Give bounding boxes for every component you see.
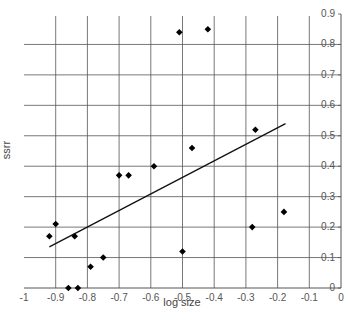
data-point-diamond [179,248,186,255]
x-axis-label: log size [163,296,200,308]
x-tick-label: -0.1 [301,292,319,303]
y-tick-label: 0.1 [321,252,335,263]
x-tick-label: -0.6 [142,292,160,303]
y-tick-label: 0.8 [321,38,335,49]
x-tick-label: -0.9 [47,292,65,303]
y-tick-label: 0.4 [321,160,335,171]
x-tick-label: -0.7 [110,292,128,303]
scatter-chart: -1-0.9-0.8-0.7-0.6-0.5-0.4-0.3-0.2-0.10 … [0,0,355,321]
x-tick-label: -0.4 [206,292,224,303]
data-point-diamond [189,145,196,152]
y-axis-label: ssrr [0,141,12,160]
y-tick-label: 0.2 [321,221,335,232]
data-point-diamond [249,224,256,231]
data-points [46,26,287,291]
y-tick-label: 0.5 [321,130,335,141]
data-point-diamond [125,172,132,179]
data-point-diamond [205,26,212,33]
y-tick-label: 0.9 [321,8,335,19]
x-tick-label: -0.3 [237,292,255,303]
grid-lines [24,16,341,288]
trend-line [49,124,285,247]
data-point-diamond [46,233,53,240]
data-point-diamond [52,221,59,228]
data-point-diamond [65,285,72,292]
x-tick-label: -0.2 [269,292,287,303]
y-tick-label: 0.7 [321,69,335,80]
data-point-diamond [151,163,158,170]
y-tick-label: 0.6 [321,99,335,110]
y-tick-label: 0 [329,282,335,293]
y-axis-ticks: 00.10.20.30.40.50.60.70.80.9 [321,8,335,293]
data-point-diamond [100,254,107,261]
data-point-diamond [116,172,123,179]
x-tick-label: 0 [338,292,344,303]
x-tick-label: -0.8 [79,292,97,303]
data-point-diamond [176,29,183,36]
data-point-diamond [87,263,94,270]
y-tick-label: 0.3 [321,191,335,202]
data-point-diamond [71,233,78,240]
x-tick-label: -1 [20,292,29,303]
data-point-diamond [281,209,288,216]
data-point-diamond [75,285,82,292]
data-point-diamond [252,126,259,133]
